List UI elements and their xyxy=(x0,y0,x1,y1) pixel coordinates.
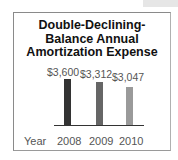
x-axis-line xyxy=(54,125,144,126)
bar-2009 xyxy=(96,82,103,125)
value-label-2009: $3,312 xyxy=(80,68,112,80)
corner-tab xyxy=(143,0,178,7)
x-tick-2008: 2008 xyxy=(57,135,81,147)
title-line-3: Amortization Expense xyxy=(14,46,170,60)
bar-2010 xyxy=(126,87,133,125)
x-axis-label: Year xyxy=(24,135,46,147)
chart-title: Double-Declining- Balance Annual Amortiz… xyxy=(14,19,170,60)
value-label-2008: $3,600 xyxy=(47,66,79,78)
bar-2008 xyxy=(64,79,71,125)
chart-frame: Double-Declining- Balance Annual Amortiz… xyxy=(13,12,171,151)
title-line-1: Double-Declining- xyxy=(14,19,170,33)
x-tick-2010: 2010 xyxy=(119,135,143,147)
x-tick-2009: 2009 xyxy=(89,135,113,147)
title-line-2: Balance Annual xyxy=(14,33,170,47)
value-label-2010: $3,047 xyxy=(112,71,144,83)
